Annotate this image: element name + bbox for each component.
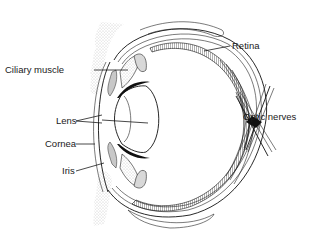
- eye-diagram-svg: Ciliary muscle Retina Lens Cornea Iris O…: [0, 0, 310, 241]
- iris-upper: [108, 70, 117, 96]
- retina: [132, 43, 249, 211]
- iris-lower: [108, 142, 117, 168]
- label-optic-nerves: Optic nerves: [243, 111, 297, 122]
- label-iris: Iris: [62, 165, 75, 176]
- label-retina: Retina: [232, 40, 260, 51]
- upper-lid-fold: [140, 22, 224, 37]
- eyelid-skin-upper: [90, 22, 124, 94]
- label-ciliary-muscle: Ciliary muscle: [5, 64, 64, 75]
- leader-lens-c: [102, 120, 148, 123]
- eyelid-skin-lower: [93, 170, 112, 226]
- label-lens: Lens: [56, 115, 77, 126]
- eye-diagram: Ciliary muscle Retina Lens Cornea Iris O…: [0, 0, 310, 241]
- leader-iris: [76, 163, 104, 171]
- sclera: [108, 29, 267, 217]
- leader-retina: [204, 46, 230, 51]
- ciliary-muscle-lower: [120, 154, 146, 188]
- lens: [115, 82, 159, 159]
- label-cornea: Cornea: [45, 138, 77, 149]
